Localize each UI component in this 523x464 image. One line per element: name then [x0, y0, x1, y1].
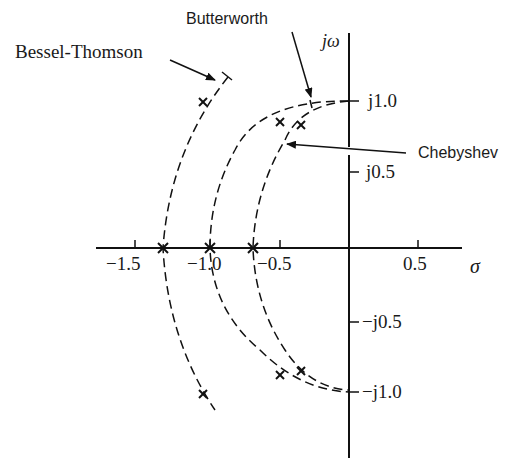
- pole-butterworth-upper: [276, 118, 284, 126]
- tick-label-p05: 0.5: [403, 254, 427, 273]
- tick-label-j10: j1.0: [368, 91, 397, 110]
- butterworth-label: Butterworth: [186, 11, 268, 27]
- tick-label-m05: −0.5: [257, 254, 291, 273]
- bessel-leader-arrow: [170, 60, 215, 80]
- tick-label-j05: j0.5: [366, 162, 395, 181]
- bessel-thomson-curve: [163, 77, 228, 410]
- axes: [96, 33, 462, 458]
- pole-zero-diagram: Bessel-Thomson Butterworth Chebyshev jω …: [0, 0, 523, 464]
- chebyshev-label: Chebyshev: [418, 145, 498, 161]
- bessel-thomson-label: Bessel-Thomson: [15, 42, 143, 61]
- butterworth-end-cap: [310, 100, 312, 108]
- tick-label-m10: −1.0: [187, 254, 221, 273]
- butterworth-leader-arrow: [292, 32, 311, 97]
- jw-axis-label: jω: [322, 32, 340, 50]
- pole-bessel-upper: [199, 98, 207, 106]
- tick-label-m15: −1.5: [106, 254, 140, 273]
- tick-label-mj10: −j1.0: [362, 382, 402, 401]
- pole-butterworth-lower: [276, 371, 284, 379]
- tick-label-mj05: −j0.5: [362, 312, 402, 331]
- chebyshev-leader-arrow: [287, 144, 406, 153]
- sigma-axis-label: σ: [470, 256, 480, 276]
- s-plane-plot: [0, 0, 523, 464]
- pole-chebyshev-upper: [297, 121, 305, 129]
